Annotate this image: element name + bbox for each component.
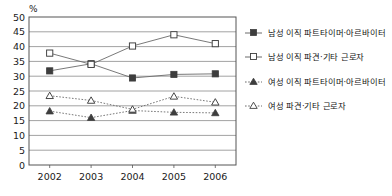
y-tick-label: 50: [13, 12, 25, 23]
data-point-marker: [212, 41, 218, 47]
x-tick-label: 2006: [203, 171, 227, 182]
data-point-marker: [47, 50, 53, 56]
data-point-marker: [171, 71, 177, 77]
y-tick-label: 45: [13, 26, 25, 37]
y-tick-label: 25: [13, 86, 25, 97]
data-point-marker: [212, 71, 218, 77]
y-axis-unit-label: %: [29, 4, 38, 14]
y-tick-label: 40: [13, 41, 25, 52]
line-chart: % 50 45 40 35 30 25 20 15 10 5 0: [0, 0, 392, 196]
legend-label: 여성 이직 파트타이머·아르바이터: [268, 77, 385, 87]
legend-label: 남성 이직 파견·기타 근로자: [268, 52, 364, 62]
legend-label: 남성 이직 파트타이머·아르바이터: [268, 28, 385, 38]
y-tick-label: 10: [13, 130, 25, 141]
data-point-marker: [88, 61, 94, 67]
data-point-marker: [171, 32, 177, 38]
legend-label: 여성 파견·기타 근로자: [268, 101, 346, 111]
data-point-marker: [129, 43, 135, 49]
y-tick-label: 5: [19, 145, 25, 156]
y-tick-label: 15: [13, 115, 25, 126]
chart-container: % 50 45 40 35 30 25 20 15 10 5 0: [0, 0, 392, 196]
data-point-marker: [129, 75, 135, 81]
y-tick-label: 0: [19, 160, 25, 171]
filled-square-marker-icon: [251, 30, 257, 36]
x-tick-label: 2002: [38, 171, 62, 182]
y-tick-label: 20: [13, 100, 25, 111]
y-tick-label: 35: [13, 56, 25, 67]
y-tick-label: 30: [13, 71, 25, 82]
x-tick-label: 2005: [162, 171, 186, 182]
hollow-square-marker-icon: [251, 54, 257, 60]
data-point-marker: [47, 68, 53, 74]
x-tick-label: 2004: [120, 171, 144, 182]
x-tick-label: 2003: [79, 171, 103, 182]
